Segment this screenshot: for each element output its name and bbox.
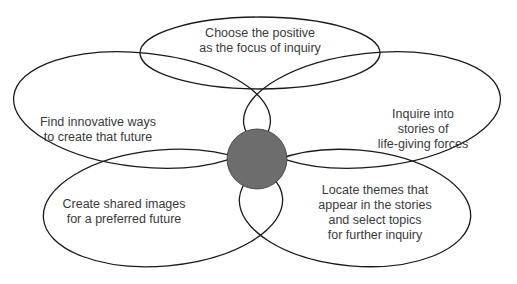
petal-left-upper-label: Find innovative ways to create that futu… — [40, 115, 156, 145]
petal-right-upper-label: Inquire into stories of life-giving forc… — [376, 107, 470, 152]
petal-right-lower-label: Locate themes that appear in the stories… — [318, 183, 431, 243]
petal-top-label: Choose the positive as the focus of inqu… — [199, 26, 321, 56]
petal-left-lower-label: Create shared images for a preferred fut… — [63, 197, 186, 227]
center-hub — [227, 129, 287, 189]
